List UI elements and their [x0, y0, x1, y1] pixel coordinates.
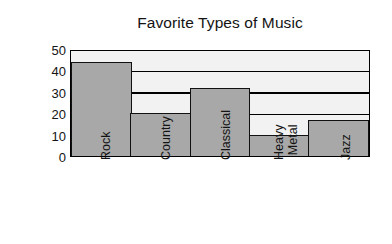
x-tick-slot: Country [130, 158, 190, 238]
x-tick-label: HeavyMetal [273, 125, 300, 160]
x-tick-slot: Rock [70, 158, 130, 238]
x-axis-tick-labels: RockCountryClassicalHeavyMetalJazz [70, 158, 370, 238]
y-tick-label: 40 [52, 65, 66, 78]
x-tick-label-line: Jazz [340, 134, 354, 160]
x-tick-label: Rock [100, 132, 114, 160]
y-tick-label: 30 [52, 86, 66, 99]
x-tick-label: Jazz [340, 134, 354, 160]
x-tick-label-line: Classical [220, 110, 234, 160]
x-tick-slot: Classical [190, 158, 250, 238]
y-tick-label: 10 [52, 129, 66, 142]
x-tick-label-line: Rock [100, 132, 114, 160]
y-axis-tick-labels: 50403020100 [44, 50, 66, 157]
x-tick-label: Classical [220, 110, 234, 160]
bar-chart-figure: Favorite Types of Music Responses 504030… [0, 0, 392, 244]
y-tick-label: 50 [52, 44, 66, 57]
chart-title: Favorite Types of Music [70, 14, 370, 32]
x-tick-label-line: Heavy [273, 125, 287, 160]
y-tick-label: 20 [52, 108, 66, 121]
x-tick-label-line: Metal [287, 125, 301, 160]
x-tick-label: Country [160, 116, 174, 160]
x-tick-label-line: Country [160, 116, 174, 160]
x-tick-slot: HeavyMetal [250, 158, 310, 238]
x-tick-slot: Jazz [310, 158, 370, 238]
y-tick-label: 0 [59, 151, 66, 164]
